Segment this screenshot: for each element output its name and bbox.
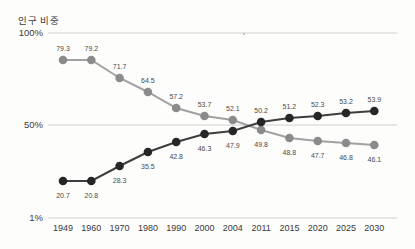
dark-series-dot (370, 107, 379, 116)
dark-series-dot (229, 127, 238, 136)
y-tick-label: 100% (0, 27, 43, 39)
data-point-label: 71.7 (105, 62, 135, 71)
dark-series-dot (200, 130, 209, 139)
dark-series-dot (342, 109, 351, 118)
gray-series-dot (200, 112, 209, 121)
dark-series-dot (59, 177, 68, 186)
dark-series-dot (313, 112, 322, 121)
data-point-label: 47.9 (218, 141, 248, 150)
x-tick-label: 2030 (354, 223, 394, 234)
data-point-label: 48.8 (274, 148, 304, 157)
data-point-label: 53.2 (331, 97, 361, 106)
data-point-label: 46.1 (359, 155, 389, 164)
gray-series-dot (370, 141, 379, 150)
gray-series-dot (87, 56, 96, 65)
gray-series-dot (59, 56, 68, 65)
data-point-label: 35.5 (133, 162, 163, 171)
dark-series-dot (87, 177, 96, 186)
y-tick-label: 50% (0, 119, 43, 131)
dark-series-dot (172, 138, 181, 147)
chart-container: 인구 비중 100%50%1%79.379.271.764.557.253.75… (0, 0, 415, 249)
dark-series-dot (285, 114, 294, 123)
data-point-label: 53.7 (190, 100, 220, 109)
data-point-label: 57.2 (161, 92, 191, 101)
gray-series-dot (313, 137, 322, 146)
data-point-label: 47.7 (303, 151, 333, 160)
data-point-label: 49.8 (246, 140, 276, 149)
data-point-label: 53.9 (359, 95, 389, 104)
y-tick-label: 1% (0, 212, 43, 224)
gray-series-dot (342, 139, 351, 148)
data-point-label: 46.3 (190, 144, 220, 153)
data-point-label: 79.3 (48, 44, 78, 53)
gray-series-dot (285, 134, 294, 143)
dark-series-dot (115, 162, 124, 171)
data-point-label: 20.7 (48, 191, 78, 200)
data-point-label: 64.5 (133, 76, 163, 85)
data-point-label: 46.8 (331, 153, 361, 162)
data-point-label: 51.2 (274, 102, 304, 111)
data-point-label: 28.3 (105, 176, 135, 185)
data-point-label: 52.3 (303, 100, 333, 109)
gray-series-dot (144, 88, 153, 97)
gray-series-dot (172, 104, 181, 113)
data-point-label: 42.8 (161, 152, 191, 161)
data-point-label: 52.1 (218, 104, 248, 113)
data-point-label: 79.2 (76, 44, 106, 53)
plot-svg (0, 0, 415, 249)
gray-series-dot (229, 116, 238, 125)
stray-mark (243, 33, 245, 35)
gray-series-dot (257, 126, 266, 135)
gray-series-dot (115, 74, 124, 83)
dark-series-dot (144, 148, 153, 157)
data-point-label: 50.2 (246, 106, 276, 115)
data-point-label: 20.8 (76, 191, 106, 200)
dark-series-dot (257, 118, 266, 127)
